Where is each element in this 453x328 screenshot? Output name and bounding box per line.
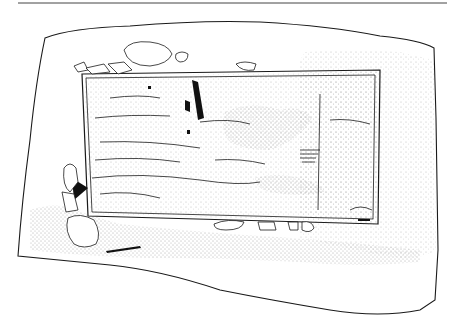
plan-drawing <box>0 0 453 328</box>
grave-cut-fill <box>84 72 378 222</box>
